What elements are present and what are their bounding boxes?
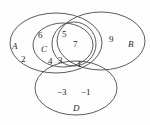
set-label-a: A [12, 42, 18, 51]
set-label-b: B [128, 40, 134, 49]
element-three: 3 [58, 56, 63, 65]
element-nine: 9 [109, 35, 114, 44]
element-two: 2 [21, 55, 26, 64]
element-six: 6 [38, 31, 43, 40]
set-label-d: D [73, 104, 80, 113]
element-one: 1 [77, 60, 82, 69]
set-label-c: C [41, 45, 47, 54]
element-five: 5 [62, 30, 67, 39]
element-four: 4 [48, 57, 53, 66]
element-negative-three: −3 [57, 88, 67, 97]
element-seven: 7 [73, 40, 78, 49]
element-negative-one: −1 [81, 88, 91, 97]
venn-diagram-figure: A B C D 2 6 5 7 9 4 3 1 −3 −1 [0, 0, 150, 125]
